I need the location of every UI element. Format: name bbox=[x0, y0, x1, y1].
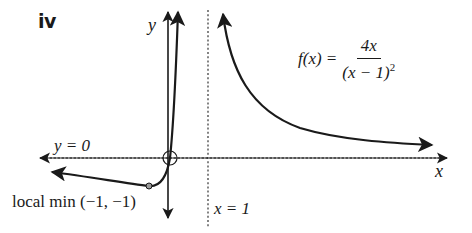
part-label: iv bbox=[38, 10, 56, 32]
function-formula: f(x) = 4x (x − 1)2 bbox=[298, 36, 397, 83]
horizontal-asymptote-label: y = 0 bbox=[54, 137, 90, 154]
y-axis-label: y bbox=[148, 16, 156, 34]
formula-denominator-base: (x − 1) bbox=[342, 63, 389, 82]
graph-figure: iv y x y = 0 x = 1 local min (−1, −1) f(… bbox=[0, 0, 472, 233]
local-min-point bbox=[146, 183, 152, 189]
formula-numerator: 4x bbox=[357, 36, 381, 59]
vertical-asymptote-label: x = 1 bbox=[214, 200, 250, 217]
formula-denominator: (x − 1)2 bbox=[340, 59, 397, 83]
local-min-label: local min (−1, −1) bbox=[12, 193, 136, 210]
formula-fraction: 4x (x − 1)2 bbox=[340, 36, 397, 83]
formula-denominator-exponent: 2 bbox=[390, 61, 396, 73]
x-axis-label: x bbox=[435, 162, 443, 180]
curve-left-branch bbox=[52, 12, 178, 186]
formula-lhs: f(x) = bbox=[298, 49, 337, 69]
